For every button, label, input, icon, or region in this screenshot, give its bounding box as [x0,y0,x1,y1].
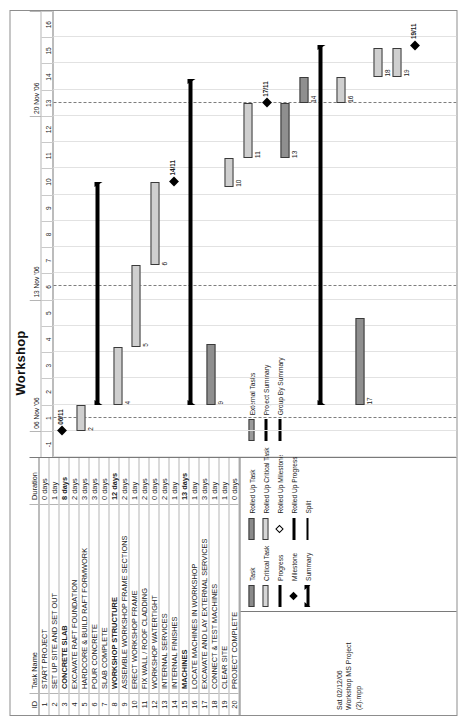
bar-label: 5 [141,343,148,347]
legend-item-label: Progress [276,555,283,581]
row-id: 5 [79,693,88,715]
rotated-page-wrapper: Workshop IDTask NameDuration1START PROJE… [0,0,465,726]
task-bar-icon [246,585,256,607]
row-task-name: POUR CONCRETE [89,504,98,693]
row-id: 10 [129,693,138,715]
table-row[interactable]: 4EXCAVATE RAFT FOUNDATION2 days [69,458,79,715]
gantt-summary-bar[interactable] [317,45,326,404]
footer-stamp: Sat 02/12/06 Workshop MS Project (2).mpp [240,611,456,715]
row-id: 14 [169,693,178,715]
timescale-day: 11 [41,142,53,168]
gantt-milestone[interactable] [261,98,271,108]
timescale-day: 15 [41,37,53,63]
row-task-name: LOCATE MACHINES IN WORKSHOP [189,504,198,693]
gantt-chart: 06 Nov '0613 Nov '0620 Nov '06 -11234567… [29,11,456,457]
table-row[interactable]: 8WORKSHOP STRUCTURE12 days [109,458,119,715]
gantt-milestone[interactable] [410,40,420,50]
legend-item-label: Task [248,567,255,581]
week-separator [53,102,456,103]
gantt-task-bar[interactable] [113,347,122,405]
table-row[interactable]: 1START PROJECT0 days [39,458,49,715]
timescale-day: 4 [41,326,53,352]
timescale-week: 13 Nov '06 [29,116,41,300]
table-row[interactable]: 13INTERNAL SERVICES2 days [159,458,169,715]
gantt-task-bar[interactable] [131,265,140,346]
table-row[interactable]: 5HARDCORE & BUILD RAFT FORMWORK3 days [79,458,89,715]
gantt-task-bar[interactable] [355,318,364,405]
row-task-name: ERECT WORKSHOP FRAME [129,504,138,693]
gantt-task-bar[interactable] [76,405,85,431]
gantt-task-bar[interactable] [336,77,345,103]
row-task-name: SET UP SITE AND SET OUT [49,504,58,693]
row-id: 9 [119,693,128,715]
timescale-header: 06 Nov '0613 Nov '0620 Nov '06 -11234567… [29,11,53,457]
table-row[interactable]: 10ERECT WORKSHOP FRAME1 day [129,458,139,715]
rolled-up-critical-task-bar-icon [260,518,270,540]
gantt-task-bar[interactable] [150,182,159,266]
legend-item: Task [245,546,257,607]
row-task-name: CLEAR SITE [219,504,228,693]
gantt-task-bar[interactable] [299,77,308,103]
split-line-icon [302,518,312,540]
bar-label: 19 [402,69,409,76]
table-row[interactable]: 7SLAB COMPLETE0 days [99,458,109,715]
table-row[interactable]: 17EXCAVATE AND LAY EXTERNAL SERVICES3 da… [199,458,209,715]
task-table-rows: IDTask NameDuration1START PROJECT0 days2… [29,458,239,715]
milestone-diamond-icon [288,585,298,607]
gantt-task-bar[interactable] [243,103,252,158]
table-row[interactable]: 3CONCRETE SLAB8 days [59,458,69,715]
column-header-task-name: Task Name [29,504,38,693]
gantt-gridline [53,456,456,457]
stamp-date: Sat 02/12/06 [334,642,343,710]
table-row[interactable]: 19CLEAR SITE1 day [219,458,229,715]
bar-label: 13 [290,151,297,158]
row-task-name: EXCAVATE RAFT FOUNDATION [69,504,78,693]
table-row[interactable]: 12WORKSHOP WATERTIGHT0 days [149,458,159,715]
row-id: 15 [179,693,188,715]
row-duration: 0 days [149,458,158,504]
gantt-summary-bar[interactable] [187,79,196,404]
bar-label: 17 [365,397,372,404]
progress-bar-icon [274,585,284,607]
gantt-task-bar[interactable] [280,103,289,158]
timescale-day: 7 [41,247,53,273]
table-row[interactable]: 16LOCATE MACHINES IN WORKSHOP1 day [189,458,199,715]
gantt-gridline [53,272,456,273]
gantt-task-bar[interactable] [206,344,215,404]
timescale-week: 06 Nov '06 [29,300,41,431]
row-duration: 13 days [179,458,188,504]
table-row[interactable]: 2SET UP SITE AND SET OUT1 day [49,458,59,715]
table-row[interactable]: 18CONNECT & TEST MACHINES1 day [209,458,219,715]
table-row[interactable]: 11FIX WALL / ROOF CLADDING2 days [139,458,149,715]
page-border: Workshop IDTask NameDuration1START PROJE… [9,10,457,716]
bar-label: 4 [123,401,130,405]
table-row[interactable]: 15MACHINES13 days [179,458,189,715]
gantt-gridline [53,36,456,37]
row-duration: 2 days [139,458,148,504]
bar-label: 11 [253,151,260,158]
legend-item: Critical Task [259,546,271,607]
timescale-day: 3 [41,352,53,378]
row-duration: 3 days [199,458,208,504]
timescale-week: 20 Nov '06 [29,11,41,116]
row-id: 4 [69,693,78,715]
gantt-task-bar[interactable] [373,48,382,77]
row-duration: 1 day [169,458,178,504]
task-table: IDTask NameDuration1START PROJECT0 days2… [29,457,456,715]
timescale-day: 8 [41,221,53,247]
table-row[interactable]: 9ASSEMBLE WORKSHOP FRAME SECTIONS2 days [119,458,129,715]
table-row[interactable]: 6POUR CONCRETE3 days [89,458,99,715]
gantt-milestone[interactable] [168,177,178,187]
table-row[interactable]: 20PROJECT COMPLETE0 days [229,458,239,715]
gantt-summary-bar[interactable] [94,182,103,405]
gantt-task-bar[interactable] [392,48,401,77]
legend-item-label: Split [304,501,311,514]
stamp-file-2: (2).mpp [353,642,362,710]
gantt-plot-area: 06/11245614/119101117/1113141617181919/1… [53,11,456,457]
gantt-milestone[interactable] [57,426,67,436]
row-duration: 1 day [129,458,138,504]
table-row[interactable]: 14INTERNAL FINISHES1 day [169,458,179,715]
rolled-up-milestone-diamond-icon [274,518,284,540]
legend-item: Rolled Up Progress [287,447,299,539]
gantt-task-bar[interactable] [224,158,233,187]
